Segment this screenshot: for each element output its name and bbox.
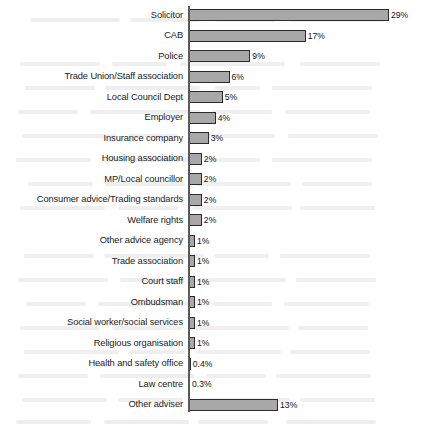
category-label: Police xyxy=(0,51,183,62)
bar-row: Welfare rights2% xyxy=(0,213,428,227)
category-label: Housing association xyxy=(0,153,183,164)
bar-value-label: 1% xyxy=(197,338,209,348)
category-label: Trade association xyxy=(0,256,183,267)
category-label: MP/Local councillor xyxy=(0,174,183,185)
category-label: Social worker/social services xyxy=(0,317,183,328)
bar xyxy=(188,132,209,144)
horizontal-bar-chart: Solicitor29%CAB17%Police9%Trade Union/St… xyxy=(0,0,428,430)
bar-and-value: 17% xyxy=(188,30,325,42)
category-label: Religious organisation xyxy=(0,338,183,349)
bar-value-label: 0.3% xyxy=(192,379,212,389)
bar-and-value: 1% xyxy=(188,235,209,247)
bar-row: Religious organisation1% xyxy=(0,336,428,350)
bar-and-value: 1% xyxy=(188,337,209,349)
bar-row: Housing association2% xyxy=(0,152,428,166)
bar-and-value: 4% xyxy=(188,112,230,124)
category-label: Ombudsman xyxy=(0,297,183,308)
bar-and-value: 1% xyxy=(188,296,209,308)
category-label: Other advice agency xyxy=(0,235,183,246)
bar-and-value: 2% xyxy=(188,173,216,185)
category-label: Law centre xyxy=(0,379,183,390)
bar-row: Trade Union/Staff association6% xyxy=(0,70,428,84)
bar-row: Other advice agency1% xyxy=(0,234,428,248)
bar-row: Other adviser13% xyxy=(0,398,428,412)
bar xyxy=(188,9,389,21)
bar-row: MP/Local councillor2% xyxy=(0,172,428,186)
bar-row: Solicitor29% xyxy=(0,8,428,22)
category-label: Trade Union/Staff association xyxy=(0,71,183,82)
bar-row: Court staff1% xyxy=(0,275,428,289)
bar-and-value: 1% xyxy=(188,276,209,288)
bar xyxy=(188,50,250,62)
bar xyxy=(188,71,230,83)
bar-row: Local Council Dept5% xyxy=(0,90,428,104)
bar-value-label: 6% xyxy=(232,72,244,82)
bar-row: Trade association1% xyxy=(0,254,428,268)
bar-value-label: 4% xyxy=(218,113,230,123)
bar-row: CAB17% xyxy=(0,29,428,43)
bar-and-value: 9% xyxy=(188,50,265,62)
bar-and-value: 5% xyxy=(188,91,237,103)
category-label: Other adviser xyxy=(0,399,183,410)
bar-row: Insurance company3% xyxy=(0,131,428,145)
bar-and-value: 1% xyxy=(188,317,209,329)
bar xyxy=(188,173,202,185)
bar-row: Law centre0.3% xyxy=(0,377,428,391)
bar-row: Police9% xyxy=(0,49,428,63)
bar-and-value: 6% xyxy=(188,71,244,83)
bar-and-value: 2% xyxy=(188,214,216,226)
bar-value-label: 5% xyxy=(225,92,237,102)
bar-and-value: 2% xyxy=(188,153,216,165)
bar-value-label: 1% xyxy=(197,256,209,266)
bar xyxy=(188,194,202,206)
bar-value-label: 13% xyxy=(280,400,297,410)
category-label: Health and safety office xyxy=(0,358,183,369)
bar-value-label: 1% xyxy=(197,277,209,287)
bar xyxy=(188,30,306,42)
bar-row: Social worker/social services1% xyxy=(0,316,428,330)
bar-value-label: 29% xyxy=(391,10,408,20)
category-label: CAB xyxy=(0,30,183,41)
bar-row: Consumer advice/Trading standards2% xyxy=(0,193,428,207)
bar xyxy=(188,112,216,124)
bar-value-label: 0.4% xyxy=(193,359,213,369)
bar-value-label: 17% xyxy=(308,31,325,41)
bar-value-label: 2% xyxy=(204,154,216,164)
category-label: Local Council Dept xyxy=(0,92,183,103)
bar-value-label: 1% xyxy=(197,236,209,246)
category-label: Employer xyxy=(0,112,183,123)
bar-value-label: 2% xyxy=(204,174,216,184)
bar-and-value: 2% xyxy=(188,194,216,206)
bar-value-label: 2% xyxy=(204,215,216,225)
bar-value-label: 9% xyxy=(252,51,264,61)
bar-value-label: 1% xyxy=(197,297,209,307)
category-label: Welfare rights xyxy=(0,215,183,226)
category-label: Solicitor xyxy=(0,10,183,21)
bar-and-value: 1% xyxy=(188,255,209,267)
bar-row: Ombudsman1% xyxy=(0,295,428,309)
category-label: Insurance company xyxy=(0,133,183,144)
bar-and-value: 3% xyxy=(188,132,223,144)
bar xyxy=(188,399,278,411)
category-label: Consumer advice/Trading standards xyxy=(0,194,183,205)
bar-row: Employer4% xyxy=(0,111,428,125)
bar-and-value: 0.4% xyxy=(188,358,212,370)
bar-and-value: 0.3% xyxy=(188,378,212,390)
bar-value-label: 2% xyxy=(204,195,216,205)
bar-value-label: 1% xyxy=(197,318,209,328)
bar xyxy=(188,214,202,226)
bar xyxy=(188,153,202,165)
bar-value-label: 3% xyxy=(211,133,223,143)
bar-and-value: 29% xyxy=(188,9,408,21)
bar-row: Health and safety office0.4% xyxy=(0,357,428,371)
bar xyxy=(188,91,223,103)
category-axis-line xyxy=(188,6,190,412)
category-label: Court staff xyxy=(0,276,183,287)
bar-and-value: 13% xyxy=(188,399,297,411)
